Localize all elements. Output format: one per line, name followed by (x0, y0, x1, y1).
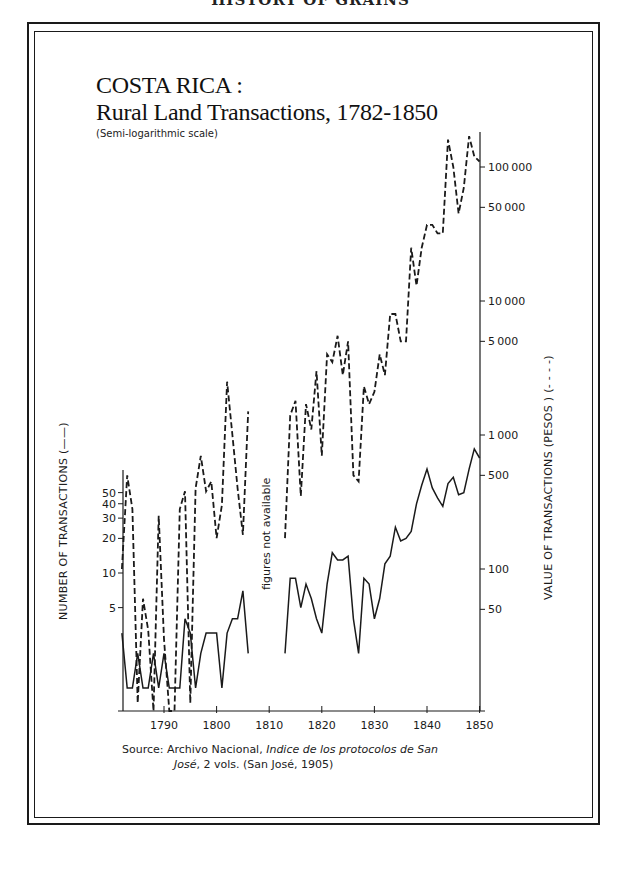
x-tick-label: 1790 (150, 719, 178, 732)
left-tick-label: 5 (109, 602, 116, 615)
left-tick-label: 30 (102, 512, 116, 525)
source-title: Indice de los protocolos de San (266, 743, 438, 756)
source-prefix: Source: Archivo Nacional, (122, 743, 266, 756)
right-tick-label: 1 000 (488, 429, 518, 442)
source-title-cont: José (174, 758, 196, 771)
left-tick-label: 40 (102, 498, 116, 511)
x-tick-label: 1840 (413, 719, 441, 732)
right-tick-label: 50 (488, 603, 502, 616)
right-tick-label: 5 000 (488, 335, 518, 348)
number-series-line (285, 449, 480, 654)
figures-not-available-note: figures not available (260, 478, 273, 590)
right-tick-label: 500 (488, 469, 509, 482)
chart-plot: 1790180018101820183018401850510203040505… (0, 0, 621, 870)
right-tick-label: 50 000 (488, 201, 525, 214)
right-tick-label: 10 000 (488, 295, 525, 308)
source-details: , 2 vols. (San José, 1905) (196, 758, 333, 771)
left-tick-label: 10 (102, 567, 116, 580)
left-tick-label: 20 (102, 532, 116, 545)
x-tick-label: 1820 (308, 719, 336, 732)
right-axis-label: VALUE OF TRANSACTIONS (PESOS ) (- - - -) (542, 355, 555, 600)
value-series-line (122, 382, 248, 711)
right-tick-label: 100 (488, 563, 509, 576)
x-tick-label: 1810 (255, 719, 283, 732)
x-tick-label: 1850 (466, 719, 494, 732)
left-tick-label: 50 (102, 487, 116, 500)
source-note: Source: Archivo Nacional, Indice de los … (122, 742, 438, 772)
x-tick-label: 1830 (360, 719, 388, 732)
right-tick-label: 100 000 (488, 161, 532, 174)
left-axis-label: NUMBER OF TRANSACTIONS (——) (57, 422, 70, 620)
x-tick-label: 1800 (203, 719, 231, 732)
value-series-line (285, 136, 480, 538)
number-series-line (122, 591, 248, 688)
